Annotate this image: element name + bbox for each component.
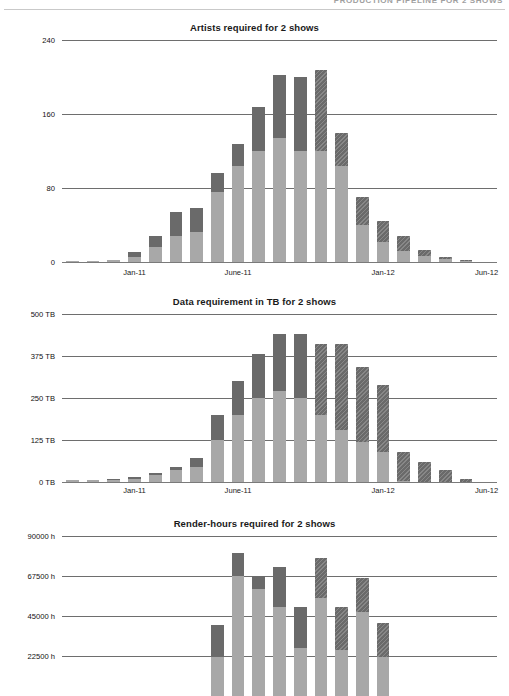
bar [149, 473, 162, 482]
bar-segment-show-a [335, 166, 348, 262]
bar-segment-show-b [252, 354, 265, 398]
chart-data-requirement: Data requirement in TB for 2 shows 0 TB1… [0, 296, 509, 504]
bar-segment-show-b [149, 236, 162, 247]
bar [232, 553, 245, 696]
plot-area: 0 TB125 TB250 TB375 TB500 TB [62, 314, 497, 482]
bar-segment-show-a [315, 598, 328, 696]
bar-segment-show-a [294, 648, 307, 696]
bar-segment-show-a [170, 236, 183, 262]
bar [66, 480, 79, 482]
gridline [62, 262, 497, 263]
bar [232, 381, 245, 482]
bar [294, 334, 307, 482]
bar [211, 625, 224, 696]
bar-segment-show-b [418, 462, 431, 482]
x-axis-tick-label: Jan-11 [123, 486, 146, 495]
bar-segment-show-b [273, 75, 286, 138]
bar-segment-show-b [252, 107, 265, 151]
bar [294, 607, 307, 696]
bar-segment-show-b [128, 477, 141, 478]
bar [356, 578, 369, 696]
bar-segment-show-a [252, 398, 265, 482]
bar-segment-show-a [356, 225, 369, 262]
bar-segment-show-b [273, 567, 286, 607]
bar-group [62, 314, 497, 482]
x-axis-tick-label: Jan-12 [371, 486, 394, 495]
bar-segment-show-a [128, 257, 141, 262]
bar-segment-show-a [232, 166, 245, 262]
bar-segment-show-a [335, 650, 348, 696]
bar [190, 208, 203, 262]
bar [170, 467, 183, 482]
bar-segment-show-b [356, 578, 369, 612]
bar-segment-show-a [315, 415, 328, 482]
bar-segment-show-b [460, 260, 473, 261]
bar-segment-show-b [190, 458, 203, 467]
bar [356, 367, 369, 482]
bar [377, 221, 390, 262]
bar-segment-show-b [418, 250, 431, 256]
bar-segment-show-a [294, 398, 307, 482]
bar-segment-show-a [252, 589, 265, 696]
bar [273, 75, 286, 262]
page-header: PRODUCTION PIPELINE FOR 2 SHOWS [0, 0, 509, 12]
bar-segment-show-b [315, 558, 328, 598]
bar [335, 344, 348, 482]
bar [418, 462, 431, 482]
bar-segment-show-a [211, 192, 224, 262]
bar [335, 607, 348, 696]
bar-segment-show-b [377, 221, 390, 241]
bar-segment-show-b [273, 334, 286, 390]
bar-segment-show-a [232, 576, 245, 696]
bar [211, 173, 224, 262]
x-axis-tick-label: Jun-12 [475, 486, 498, 495]
bar-segment-show-a [460, 261, 473, 262]
bar [107, 260, 120, 262]
plot-area: 080160240 [62, 40, 497, 262]
bar-segment-show-a [170, 470, 183, 482]
y-axis-tick-label: 240 [42, 36, 55, 45]
y-axis-tick-label: 0 TB [39, 478, 55, 487]
bar [377, 623, 390, 696]
bar-segment-show-b [439, 257, 452, 259]
bar-segment-show-a [273, 138, 286, 262]
page-header-title: PRODUCTION PIPELINE FOR 2 SHOWS [334, 0, 503, 5]
bar-segment-show-a [377, 657, 390, 696]
bar-segment-show-b [107, 479, 120, 480]
bar-segment-show-b [335, 133, 348, 166]
bar-segment-show-b [128, 252, 141, 258]
bar [460, 260, 473, 262]
bar-segment-show-a [128, 479, 141, 482]
bar-segment-show-b [377, 623, 390, 657]
plot-area: 22500 h45000 h67500 h90000 h [62, 536, 497, 696]
y-axis-tick-label: 375 TB [31, 352, 55, 361]
bar-segment-show-a [418, 256, 431, 262]
bar-segment-show-b [149, 473, 162, 475]
bar-segment-show-b [460, 479, 473, 482]
gridline [62, 482, 497, 483]
bar-segment-show-b [397, 452, 410, 481]
bar [439, 470, 452, 482]
chart-artists-required: Artists required for 2 shows 080160240 J… [0, 22, 509, 282]
bar-segment-show-a [66, 261, 79, 262]
bar-group [62, 536, 497, 696]
bar-segment-show-b [294, 334, 307, 398]
bar [418, 250, 431, 262]
bar [252, 107, 265, 262]
bar-segment-show-b [356, 367, 369, 442]
bar [273, 334, 286, 482]
bar-segment-show-b [211, 173, 224, 192]
bar-segment-show-a [149, 475, 162, 482]
bar [149, 236, 162, 262]
bar-segment-show-a [439, 259, 452, 262]
bar [232, 144, 245, 262]
y-axis-tick-label: 22500 h [28, 652, 55, 661]
bar-segment-show-a [232, 415, 245, 482]
bar [397, 236, 410, 262]
bar-group [62, 40, 497, 262]
bar [397, 452, 410, 482]
y-axis-tick-label: 90000 h [28, 532, 55, 541]
y-axis-tick-label: 125 TB [31, 436, 55, 445]
x-axis-tick-label: Jan-11 [123, 268, 146, 277]
bar [315, 70, 328, 262]
